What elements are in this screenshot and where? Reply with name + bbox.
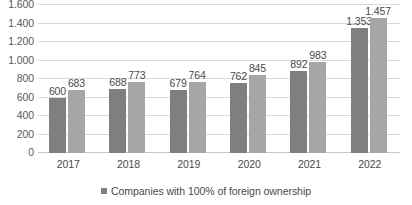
y-axis-labels: 02004006008001.0001.2001.4001.600 bbox=[0, 0, 34, 158]
y-axis-tick-label: 0 bbox=[0, 147, 34, 158]
legend-swatch-icon bbox=[101, 188, 107, 194]
x-axis-tick-label: 2021 bbox=[280, 158, 340, 171]
x-axis-tick-label: 2019 bbox=[159, 158, 219, 171]
bar-group: 1.3531.457 bbox=[340, 5, 400, 153]
bar-group: 892983 bbox=[279, 5, 339, 153]
bar[interactable] bbox=[309, 62, 326, 153]
bar-value-label: 773 bbox=[121, 70, 152, 81]
bar[interactable] bbox=[230, 83, 247, 153]
x-axis-tick-label: 2022 bbox=[340, 158, 400, 171]
bar[interactable] bbox=[290, 71, 307, 154]
bar[interactable] bbox=[189, 82, 206, 153]
bar-chart: 02004006008001.0001.2001.4001.600 600683… bbox=[0, 0, 412, 205]
bar[interactable] bbox=[68, 90, 85, 153]
bar-value-label: 764 bbox=[182, 70, 213, 81]
y-axis-tick-label: 1.400 bbox=[0, 18, 34, 29]
y-axis-tick-label: 800 bbox=[0, 73, 34, 84]
x-axis-tick-label: 2017 bbox=[38, 158, 98, 171]
bar-value-label: 983 bbox=[302, 50, 333, 61]
y-axis-tick-label: 600 bbox=[0, 92, 34, 103]
bar-group: 679764 bbox=[159, 5, 219, 153]
bar-group: 600683 bbox=[38, 5, 98, 153]
bar-groups: 6006836887736797647628458929831.3531.457 bbox=[38, 5, 400, 153]
chart-legend: Companies with 100% of foreign ownership bbox=[0, 183, 412, 199]
bar[interactable] bbox=[170, 90, 187, 153]
bar-value-label: 683 bbox=[61, 78, 92, 89]
bar-value-label: 845 bbox=[242, 63, 273, 74]
bar[interactable] bbox=[128, 82, 145, 154]
bar-group: 762845 bbox=[219, 5, 279, 153]
x-axis-tick-label: 2018 bbox=[99, 158, 159, 171]
bar-value-label: 1.457 bbox=[363, 6, 394, 17]
bar[interactable] bbox=[249, 75, 266, 153]
y-axis-tick-label: 1.200 bbox=[0, 36, 34, 47]
bar[interactable] bbox=[370, 18, 387, 153]
bar[interactable] bbox=[351, 28, 368, 153]
y-axis-tick-label: 1.000 bbox=[0, 55, 34, 66]
y-axis-tick-label: 1.600 bbox=[0, 0, 34, 10]
legend-item-0[interactable]: Companies with 100% of foreign ownership bbox=[101, 185, 311, 197]
bar[interactable] bbox=[109, 89, 126, 153]
x-axis-labels: 201720182019202020212022 bbox=[38, 158, 400, 174]
bar-group: 688773 bbox=[98, 5, 158, 153]
legend-item-label: Companies with 100% of foreign ownership bbox=[111, 185, 311, 197]
bar[interactable] bbox=[49, 98, 66, 154]
y-axis-tick-label: 200 bbox=[0, 129, 34, 140]
x-axis-tick-label: 2020 bbox=[219, 158, 279, 171]
y-axis-tick-label: 400 bbox=[0, 110, 34, 121]
